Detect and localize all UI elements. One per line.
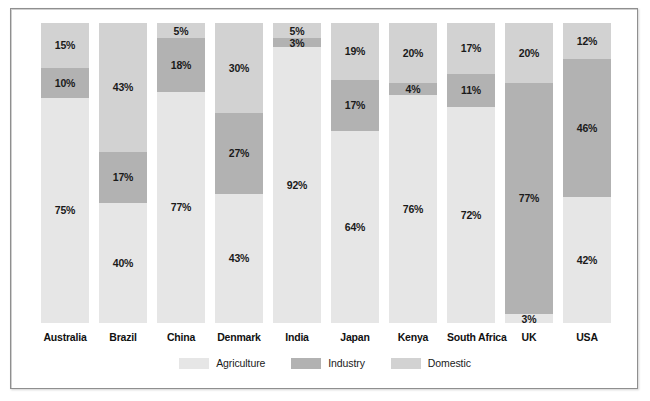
bar-group: 5%18%77%	[157, 23, 205, 323]
bar-segment: 10%	[41, 68, 89, 98]
segment-value-label: 17%	[461, 43, 481, 54]
x-axis-label: China	[157, 331, 205, 343]
x-axis-label: India	[273, 331, 321, 343]
bar-segment: 4%	[389, 83, 437, 95]
segment-value-label: 12%	[577, 36, 597, 47]
segment-value-label: 20%	[403, 48, 423, 59]
bar-segment: 19%	[331, 23, 379, 80]
bar-segment: 27%	[215, 113, 263, 194]
x-axis-label: Kenya	[389, 331, 437, 343]
bar-segment: 46%	[563, 59, 611, 197]
legend-swatch	[391, 358, 421, 369]
segment-value-label: 64%	[345, 222, 365, 233]
bar-segment: 5%	[157, 23, 205, 38]
bar-segment: 77%	[505, 83, 553, 314]
segment-value-label: 77%	[519, 193, 539, 204]
bar-segment: 17%	[99, 152, 147, 203]
segment-value-label: 27%	[229, 148, 249, 159]
legend-swatch	[291, 358, 321, 369]
bar-segment: 40%	[99, 203, 147, 323]
segment-value-label: 5%	[174, 25, 189, 36]
bar-group: 30%27%43%	[215, 23, 263, 323]
segment-value-label: 40%	[113, 258, 133, 269]
legend-label: Domestic	[428, 357, 471, 369]
stacked-bar-plot-area: 15%10%75%43%17%40%5%18%77%30%27%43%5%3%9…	[41, 23, 611, 323]
bar-group: 17%11%72%	[447, 23, 495, 323]
bar-segment: 72%	[447, 107, 495, 323]
bar-segment: 3%	[505, 314, 553, 323]
chart-legend: AgricultureIndustryDomestic	[11, 357, 639, 369]
bar-segment: 43%	[215, 194, 263, 323]
segment-value-label: 77%	[171, 202, 191, 213]
legend-item: Industry	[291, 357, 365, 369]
bar-group: 19%17%64%	[331, 23, 379, 323]
segment-value-label: 19%	[345, 46, 365, 57]
x-axis-label: South Africa	[447, 331, 495, 343]
bar-segment: 77%	[157, 92, 205, 323]
x-axis-label: Japan	[331, 331, 379, 343]
legend-item: Domestic	[391, 357, 471, 369]
bar-group: 12%46%42%	[563, 23, 611, 323]
x-axis-label: USA	[563, 331, 611, 343]
x-axis-category-labels: AustraliaBrazilChinaDenmarkIndiaJapanKen…	[41, 331, 611, 343]
x-axis-label: UK	[505, 331, 553, 343]
bar-segment: 17%	[447, 23, 495, 74]
bar-segment: 18%	[157, 38, 205, 92]
bar-segment: 17%	[331, 80, 379, 131]
segment-value-label: 15%	[55, 40, 75, 51]
bar-group: 15%10%75%	[41, 23, 89, 323]
bar-segment: 12%	[563, 23, 611, 59]
segment-value-label: 17%	[113, 172, 133, 183]
segment-value-label: 3%	[522, 313, 537, 324]
segment-value-label: 20%	[519, 48, 539, 59]
segment-value-label: 92%	[287, 180, 307, 191]
segment-value-label: 76%	[403, 204, 423, 215]
bar-segment: 92%	[273, 47, 321, 323]
chart-frame: 15%10%75%43%17%40%5%18%77%30%27%43%5%3%9…	[10, 8, 638, 389]
legend-swatch	[179, 358, 209, 369]
bar-segment: 3%	[273, 38, 321, 47]
segment-value-label: 46%	[577, 123, 597, 134]
segment-value-label: 72%	[461, 210, 481, 221]
bar-segment: 20%	[505, 23, 553, 83]
segment-value-label: 43%	[229, 253, 249, 264]
segment-value-label: 30%	[229, 63, 249, 74]
legend-label: Agriculture	[216, 357, 265, 369]
segment-value-label: 43%	[113, 82, 133, 93]
bar-segment: 15%	[41, 23, 89, 68]
bar-group: 20%77%3%	[505, 23, 553, 323]
x-axis-label: Australia	[41, 331, 89, 343]
bar-segment: 20%	[389, 23, 437, 83]
segment-value-label: 42%	[577, 255, 597, 266]
bar-segment: 11%	[447, 74, 495, 107]
segment-value-label: 10%	[55, 78, 75, 89]
segment-value-label: 4%	[406, 84, 421, 95]
bar-segment: 43%	[99, 23, 147, 152]
segment-value-label: 75%	[55, 205, 75, 216]
bar-segment: 64%	[331, 131, 379, 323]
x-axis-label: Denmark	[215, 331, 263, 343]
segment-value-label: 5%	[290, 25, 305, 36]
bar-group: 43%17%40%	[99, 23, 147, 323]
segment-value-label: 11%	[461, 85, 481, 96]
bar-group: 20%4%76%	[389, 23, 437, 323]
segment-value-label: 17%	[345, 100, 365, 111]
bar-segment: 42%	[563, 197, 611, 323]
bar-segment: 76%	[389, 95, 437, 323]
legend-label: Industry	[328, 357, 365, 369]
bar-segment: 75%	[41, 98, 89, 323]
segment-value-label: 18%	[171, 60, 191, 71]
x-axis-label: Brazil	[99, 331, 147, 343]
bar-segment: 30%	[215, 23, 263, 113]
legend-item: Agriculture	[179, 357, 265, 369]
bar-group: 5%3%92%	[273, 23, 321, 323]
